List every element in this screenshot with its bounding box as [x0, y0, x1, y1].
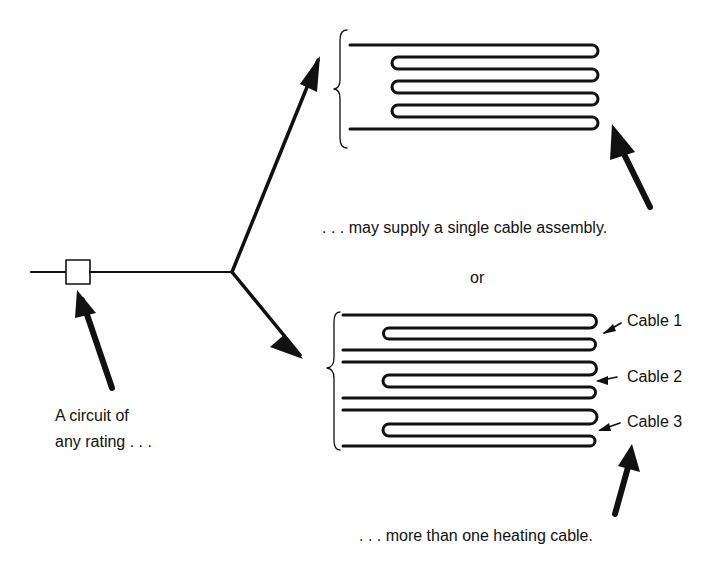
arrowhead-circuit	[75, 290, 96, 318]
top-brace	[334, 30, 347, 148]
arrowhead-down	[270, 334, 303, 359]
single-pointer-shaft	[622, 150, 650, 207]
diagram-canvas	[0, 0, 719, 561]
or-label: or	[470, 268, 484, 288]
cable-3	[343, 410, 597, 446]
arrowhead-single	[610, 124, 635, 160]
branch-up-line	[232, 60, 318, 272]
cable-1	[343, 315, 597, 350]
cable-2-label: Cable 2	[627, 367, 682, 387]
cable-2	[343, 362, 597, 398]
single-cable	[350, 45, 598, 129]
arrowhead-multi	[618, 444, 640, 472]
single-cable-label: . . . may supply a single cable assembly…	[322, 218, 607, 238]
circuit-label-line-1: A circuit of	[55, 406, 129, 426]
multiple-cables-label: . . . more than one heating cable.	[359, 526, 593, 546]
circuit-label-line-2: any rating . . .	[55, 432, 152, 452]
arrowhead-up	[300, 56, 320, 92]
breaker-box	[66, 260, 90, 284]
cable-1-label: Cable 1	[627, 311, 682, 331]
cable-3-label: Cable 3	[627, 412, 682, 432]
bottom-brace	[327, 312, 340, 450]
